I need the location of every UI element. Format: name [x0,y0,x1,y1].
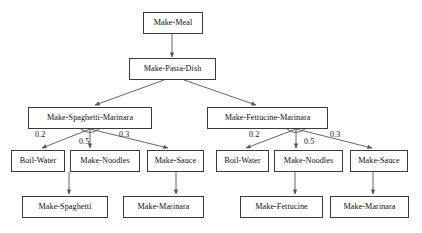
node-label: Make-Marinara [343,203,395,211]
node-make-noodles-right[interactable]: Make-Noodles [274,150,343,172]
edge-label-spaghetti-make-noodles: 0.5 [79,138,89,146]
node-make-fettucine[interactable]: Make-Fettucine [240,196,323,218]
node-make-fettucine-marinara[interactable]: Make-Fettucine-Marinara [207,107,328,129]
node-make-meal[interactable]: Make-Meal [143,12,203,34]
node-label: Make-Spaghetti-Marinara [47,114,133,122]
node-make-spaghetti-marinara[interactable]: Make-Spaghetti-Marinara [28,107,152,129]
node-label: Make-Noodles [80,157,129,165]
edge-label-fettucine-make-noodles: 0.5 [304,138,314,146]
node-label: Make-Fettucine [255,203,308,211]
node-label: Make-Noodles [284,157,333,165]
node-label: Boil-Water [224,157,261,165]
edge-label-spaghetti-boil-water: 0.2 [35,131,45,139]
node-make-marinara-left[interactable]: Make-Marinara [123,196,204,218]
and-arc-fettucine-marinara [287,129,305,133]
node-make-noodles-left[interactable]: Make-Noodles [70,150,140,172]
node-make-sauce-left[interactable]: Make-Sauce [147,150,204,172]
node-boil-water-left[interactable]: Boil-Water [11,150,65,172]
node-make-pasta-dish[interactable]: Make-Pasta-Dish [129,58,216,80]
node-label: Boil-Water [20,157,57,165]
edge-label-fettucine-make-sauce: 0.3 [330,131,340,139]
node-label: Make-Fettucine-Marinara [225,114,311,122]
node-label: Make-Pasta-Dish [144,65,202,73]
edge-make-pasta-dish-to-make-spaghetti-marinara [95,80,164,105]
node-label: Make-Marinara [137,203,189,211]
node-boil-water-right[interactable]: Boil-Water [216,150,269,172]
node-make-sauce-right[interactable]: Make-Sauce [350,150,408,172]
node-label: Make-Spaghetti [39,203,92,211]
node-label: Make-Sauce [358,157,399,165]
node-label: Make-Sauce [155,157,196,165]
node-label: Make-Meal [154,19,193,27]
edge-make-pasta-dish-to-make-fettucine-marinara [184,80,256,105]
edge-label-fettucine-boil-water: 0.2 [249,131,259,139]
edge-label-spaghetti-make-sauce: 0.3 [119,131,129,139]
node-make-marinara-right[interactable]: Make-Marinara [330,196,409,218]
node-make-spaghetti[interactable]: Make-Spaghetti [22,196,108,218]
task-decomposition-diagram: Make-Meal Make-Pasta-Dish Make-Spaghetti… [0,0,422,233]
and-arc-spaghetti-marinara [81,129,99,133]
